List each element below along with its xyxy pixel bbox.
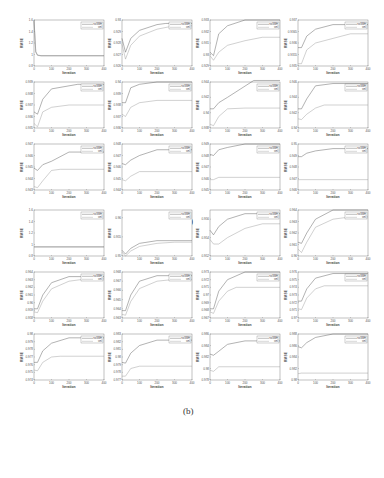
y-tick-label: 0.935 [25,126,33,130]
x-tick-label: 0 [121,257,123,261]
x-axis-label: Iteration [150,385,163,389]
x-tick-label: 400 [365,319,370,323]
y-tick-label: 0.974 [289,285,297,289]
x-tick-label: 200 [330,129,335,133]
y-tick-label: 0.93 [203,53,209,57]
y-axis-label: RMSE [284,227,288,238]
chart-svg: 01002003004000.940.9420.9440.946Iteratio… [284,80,376,144]
chart-svg: 01002003004000.9350.93550.9360.93650.937… [284,18,376,82]
y-tick-label: 0.979 [113,363,121,367]
y-axis-label: RMSE [108,161,112,172]
legend-label: sml [186,277,190,281]
y-tick-label: 0.959 [25,308,33,312]
x-tick-label: 300 [348,381,353,385]
x-axis-label: Iteration [326,71,339,75]
legend-label: sml [274,149,278,153]
y-tick-label: 0.971 [201,285,209,289]
x-tick-label: 0 [121,381,123,385]
x-tick-label: 400 [277,67,282,71]
x-tick-label: 200 [242,381,247,385]
y-tick-label: 0.96 [27,301,33,305]
x-tick-label: 200 [66,129,71,133]
x-tick-label: 0 [297,67,299,71]
y-tick-label: 0.944 [113,188,121,192]
x-tick-label: 300 [172,257,177,261]
y-tick-label: 0.98 [291,378,297,382]
x-axis-label: Iteration [62,385,75,389]
y-tick-label: 0.963 [289,220,297,224]
chart-svg: 01002003004000.9770.9780.9790.980.9810.9… [108,332,200,396]
subplot: 01002003004000.9360.9370.9380.9390.94Ite… [108,80,200,144]
subplot: 01002003004000.9670.9680.9690.970.9710.9… [196,270,288,334]
subplot: 01002003004000.970.9710.9720.9730.9740.9… [284,270,376,334]
legend-label: sml [362,215,366,219]
y-tick-label: 0.988 [289,332,297,336]
y-tick-label: 0.94 [203,111,209,115]
x-tick-label: 400 [365,191,370,195]
y-axis-label: RMSE [20,99,24,110]
y-tick-label: 0.982 [113,340,121,344]
y-tick-label: 0.986 [201,332,209,336]
y-axis-label: RMSE [284,161,288,172]
y-tick-label: 0.971 [289,308,297,312]
x-tick-label: 0 [33,67,35,71]
legend: noSMHsml [257,22,279,29]
y-tick-label: 0.977 [25,355,33,359]
y-tick-label: 0.928 [113,41,121,45]
y-tick-label: 0.979 [25,340,33,344]
y-tick-label: 0.937 [113,115,121,119]
y-tick-label: 0.927 [113,53,121,57]
chart-svg: 01002003004000.9380.940.9420.944Iteratio… [196,80,288,144]
legend: noSMHsml [345,84,367,91]
y-tick-label: 0.968 [113,270,121,274]
x-tick-label: 300 [172,129,177,133]
x-tick-label: 300 [172,191,177,195]
x-tick-label: 300 [172,67,177,71]
legend-label: sml [274,25,278,29]
y-tick-label: 0.964 [113,307,121,311]
x-tick-label: 0 [33,191,35,195]
x-tick-label: 300 [260,67,265,71]
y-tick-label: 0.964 [25,270,33,274]
y-tick-label: 0.947 [289,177,297,181]
y-tick-label: 0.937 [289,18,297,22]
x-tick-label: 400 [101,129,106,133]
y-tick-label: 0.947 [113,154,121,158]
x-tick-label: 200 [66,381,71,385]
caption-b: (b) [183,406,194,416]
x-tick-label: 300 [260,129,265,133]
x-tick-label: 100 [225,319,230,323]
x-tick-label: 300 [84,381,89,385]
chart-svg: 01002003004000.9580.9590.960.9610.9620.9… [20,270,112,334]
x-tick-label: 200 [154,67,159,71]
x-tick-label: 200 [66,257,71,261]
x-tick-label: 200 [154,319,159,323]
x-tick-label: 300 [348,257,353,261]
legend-label: sml [98,215,102,219]
chart-svg: 01002003004000.9780.980.9820.9840.986Ite… [196,332,288,396]
chart-svg: 01002003004000.9670.9680.9690.970.9710.9… [196,270,288,334]
legend: noSMHsml [345,336,367,343]
y-tick-label: 0.8 [29,64,34,68]
x-tick-label: 300 [84,319,89,323]
y-tick-label: 0.97 [203,293,209,297]
chart-svg: 01002003004000.9260.9270.9280.9290.93Ite… [108,18,200,82]
y-axis-label: RMSE [196,161,200,172]
legend-label: sml [186,87,190,91]
x-axis-label: Iteration [326,385,339,389]
legend: noSMHsml [169,274,191,281]
subplot: 01002003004000.9440.9450.9460.9470.948It… [108,142,200,206]
x-tick-label: 400 [365,67,370,71]
y-tick-label: 0.955 [113,235,121,239]
x-tick-label: 400 [365,257,370,261]
y-tick-label: 0.94 [115,80,121,84]
y-tick-label: 0.963 [25,278,33,282]
legend-label: sml [186,215,190,219]
x-tick-label: 100 [49,319,54,323]
legend: noSMHsml [81,212,103,219]
y-tick-label: 0.942 [201,95,209,99]
x-axis-label: Iteration [62,323,75,327]
y-tick-label: 0.931 [201,41,209,45]
x-tick-label: 400 [189,67,194,71]
x-axis-label: Iteration [238,195,251,199]
